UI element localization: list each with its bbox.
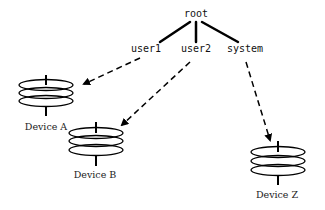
device-b-label: Device B	[74, 169, 117, 180]
device-a-icon	[19, 75, 73, 116]
arrow-user2-device-b	[122, 62, 190, 125]
device-b-icon	[69, 122, 123, 166]
edge-root-user1	[160, 22, 190, 42]
user1-label: user1	[131, 43, 161, 54]
root-label: root	[184, 8, 208, 19]
arrow-user1-device-a	[84, 58, 140, 84]
device-z-icon	[251, 141, 305, 185]
tree-edges	[160, 22, 238, 42]
mount-edges	[84, 58, 270, 140]
device-a-label: Device A	[25, 121, 68, 132]
edge-root-system	[202, 22, 238, 42]
device-z-label: Device Z	[256, 189, 299, 200]
arrow-system-device-z	[246, 62, 270, 140]
system-label: system	[227, 43, 263, 54]
user2-label: user2	[181, 43, 211, 54]
diagram-canvas: root user1 user2 system Device A Device …	[0, 0, 325, 210]
